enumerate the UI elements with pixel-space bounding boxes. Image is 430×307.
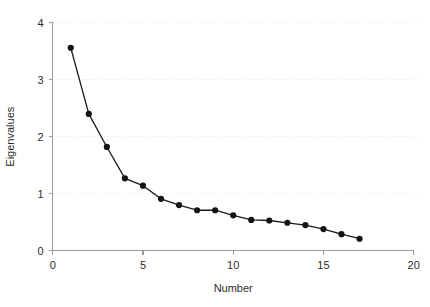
x-tick-label-2: 10 [227, 259, 239, 271]
data-point-8 [194, 207, 200, 213]
chart-canvas: 05101520 01234 Number Eigenvalues [0, 0, 430, 307]
x-tick-label-4: 20 [408, 259, 420, 271]
x-axis-title: Number [214, 282, 253, 294]
x-tick-label-0: 0 [50, 259, 56, 271]
y-tick-label-0: 0 [38, 245, 44, 257]
data-point-12 [266, 217, 272, 223]
data-point-7 [176, 202, 182, 208]
data-point-2 [86, 111, 92, 117]
data-point-16 [338, 231, 344, 237]
data-point-11 [248, 217, 254, 223]
tick-marks [49, 23, 414, 255]
scree-plot-chart: 05101520 01234 Number Eigenvalues [0, 0, 430, 307]
data-series-eigenvalues [68, 45, 363, 242]
data-point-1 [68, 45, 74, 51]
data-point-15 [320, 226, 326, 232]
x-tick-label-3: 15 [317, 259, 329, 271]
y-tick-label-3: 3 [38, 74, 44, 86]
data-point-3 [104, 144, 110, 150]
data-point-5 [140, 183, 146, 189]
data-point-17 [356, 236, 362, 242]
y-axis-tick-labels: 01234 [38, 17, 44, 257]
x-axis-tick-labels: 05101520 [50, 259, 420, 271]
data-point-9 [212, 207, 218, 213]
x-tick-label-1: 5 [140, 259, 146, 271]
data-point-4 [122, 175, 128, 181]
data-point-13 [284, 220, 290, 226]
data-point-6 [158, 196, 164, 202]
data-point-10 [230, 212, 236, 218]
y-tick-label-1: 1 [38, 188, 44, 200]
y-axis-title: Eigenvalues [4, 106, 16, 166]
y-tick-label-2: 2 [38, 131, 44, 143]
y-tick-label-4: 4 [38, 17, 44, 29]
data-point-14 [302, 222, 308, 228]
